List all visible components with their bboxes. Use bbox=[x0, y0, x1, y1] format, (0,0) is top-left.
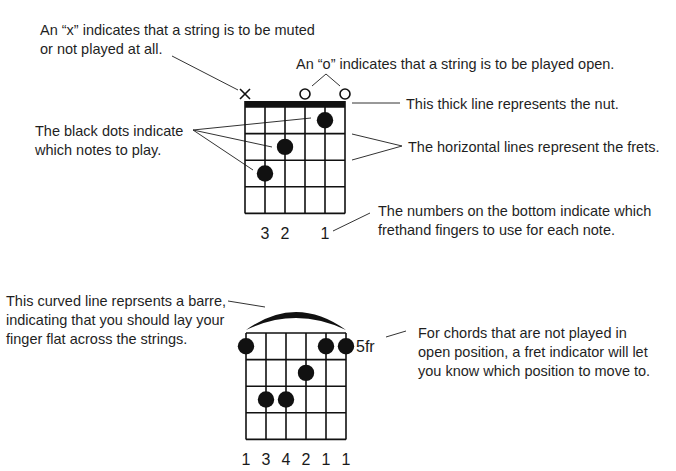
leader-o-marker bbox=[312, 74, 340, 86]
finger-dot bbox=[318, 338, 334, 354]
leader-x-marker bbox=[172, 56, 238, 90]
finger-number: 1 bbox=[321, 225, 330, 242]
leader-dot-1 bbox=[193, 118, 311, 130]
open-marker-o-icon bbox=[300, 89, 310, 99]
finger-dot bbox=[277, 139, 293, 155]
finger-dot bbox=[317, 112, 333, 128]
finger-number: 3 bbox=[261, 225, 270, 242]
open-marker-o-icon bbox=[340, 89, 350, 99]
leader-fret-1 bbox=[352, 134, 402, 146]
finger-number: 4 bbox=[282, 451, 291, 468]
finger-dot bbox=[338, 338, 354, 354]
chord-diagram-barre: 5fr134211 bbox=[238, 312, 376, 468]
nut bbox=[244, 101, 346, 107]
finger-number: 1 bbox=[322, 451, 331, 468]
finger-number: 1 bbox=[242, 451, 251, 468]
finger-dot bbox=[278, 391, 294, 407]
leader-barre bbox=[228, 301, 265, 307]
leader-fret-2 bbox=[352, 146, 402, 160]
mute-marker-x-icon bbox=[240, 89, 250, 99]
finger-number: 2 bbox=[302, 451, 311, 468]
finger-number: 3 bbox=[262, 451, 271, 468]
finger-number: 2 bbox=[281, 225, 290, 242]
barre-arc bbox=[246, 312, 346, 330]
chord-diagram-open: 321 bbox=[240, 89, 350, 242]
finger-dot bbox=[257, 165, 273, 181]
leader-lines bbox=[172, 56, 406, 337]
finger-dot bbox=[258, 391, 274, 407]
finger-dot bbox=[238, 338, 254, 354]
finger-dot bbox=[298, 365, 314, 381]
fret-position-label: 5fr bbox=[356, 338, 375, 355]
leader-fingers bbox=[333, 213, 370, 231]
finger-number: 1 bbox=[342, 451, 351, 468]
chord-diagrams: 321 5fr134211 bbox=[0, 0, 676, 471]
leader-fret-indicator bbox=[386, 331, 406, 337]
